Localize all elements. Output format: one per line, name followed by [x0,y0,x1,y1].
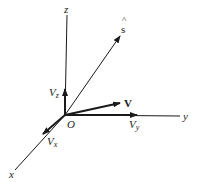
vz-label: Vz [49,86,60,100]
v-label: V [124,97,132,109]
origin-label: O [67,118,75,130]
vx-label: Vx [47,135,58,149]
s-hat-label: s [121,23,125,35]
vy-label-sub: y [135,123,140,132]
v-vector [65,103,120,115]
x-axis-label: x [8,168,14,180]
vz-label-sub: z [55,91,60,100]
z-axis-label: z [63,3,69,15]
vx-label-sub: x [53,140,58,149]
vx-component [43,115,65,134]
vy-label: Vy [129,118,140,132]
s-hat-vector [65,36,120,115]
x-axis [15,115,65,170]
vector-diagram: z y x O ^ s V Vz Vy Vx [0,0,201,182]
y-axis-label: y [182,110,188,122]
